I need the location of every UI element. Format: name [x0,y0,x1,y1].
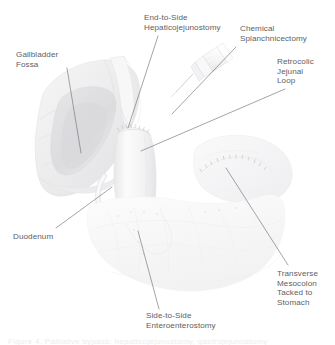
label-side-to-side-enteroenterostomy: Side-to-Side Enteroenterostomy [146,311,216,330]
label-gallbladder-fossa: Gallbladder Fossa [16,50,58,69]
label-duodenum: Duodenum [13,232,53,242]
bowel-loops-group [87,194,285,291]
surgical-illustration-figure: Gallbladder Fossa End-to-Side Hepaticoje… [0,0,335,345]
label-end-to-side-hepaticojejunostomy: End-to-Side Hepaticojejunostomy [144,13,221,32]
syringe-group [171,43,233,97]
stomach-group [194,135,293,203]
label-retrocolic-jejunal-loop: Retrocolic Jejunal Loop [277,57,314,86]
figure-caption: Figure 4. Palliative bypass: hepaticojej… [8,337,328,345]
label-transverse-mesocolon-tacked-to-stomach: Transverse Mesocolon Tacked to Stomach [277,269,318,307]
label-chemical-splanchnicectomy: Chemical Splanchnicectomy [240,24,307,43]
